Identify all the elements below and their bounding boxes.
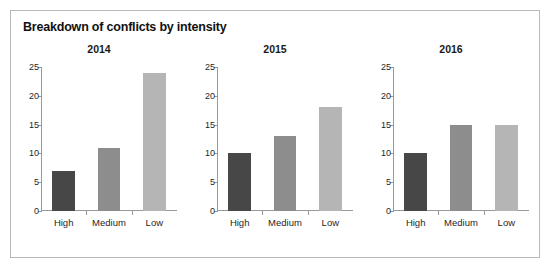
x-axis-labels: HighMediumLow <box>393 217 529 233</box>
x-axis-tick <box>438 211 439 215</box>
y-axis-tick-label: 25 <box>29 62 39 72</box>
bar-high <box>52 171 75 211</box>
bar-low <box>143 73 166 211</box>
x-axis-label-high: High <box>54 217 74 228</box>
bar-medium <box>98 148 121 211</box>
bar-high <box>228 153 251 211</box>
y-axis-tick-label: 0 <box>210 206 215 216</box>
y-axis-tick-label: 10 <box>205 148 215 158</box>
x-axis-label-medium: Medium <box>268 217 302 228</box>
x-axis-tick <box>308 211 309 215</box>
y-axis-tick-label: 0 <box>386 206 391 216</box>
plot-area: 0510152025 <box>217 67 353 211</box>
y-axis-tick-label: 20 <box>381 91 391 101</box>
y-axis-tick-label: 5 <box>386 177 391 187</box>
page-title: Breakdown of conflicts by intensity <box>23 20 226 34</box>
bar-medium <box>450 125 473 211</box>
y-axis-tick-label: 5 <box>210 177 215 187</box>
y-axis-tick-label: 15 <box>205 120 215 130</box>
y-axis-tick-label: 20 <box>205 91 215 101</box>
y-axis-tick-label: 20 <box>29 91 39 101</box>
y-axis-tick-label: 25 <box>205 62 215 72</box>
chart-panel-2014: 20140510152025HighMediumLow <box>11 41 187 256</box>
y-axis-tick-label: 0 <box>34 206 39 216</box>
bar-low <box>319 107 342 211</box>
x-axis-label-high: High <box>406 217 426 228</box>
y-axis-tick-label: 25 <box>381 62 391 72</box>
x-axis-tick <box>132 211 133 215</box>
panel-group: 20140510152025HighMediumLow2015051015202… <box>11 41 539 256</box>
panel-title: 2015 <box>187 43 363 55</box>
y-axis-tick-label: 5 <box>34 177 39 187</box>
x-axis-label-medium: Medium <box>444 217 478 228</box>
x-axis-label-low: Low <box>146 217 163 228</box>
x-axis-label-high: High <box>230 217 250 228</box>
y-axis-tick-label: 10 <box>381 148 391 158</box>
bar-low <box>495 125 518 211</box>
plot-area: 0510152025 <box>41 67 177 211</box>
chart-panel-2015: 20150510152025HighMediumLow <box>187 41 363 256</box>
bar-high <box>404 153 427 211</box>
x-axis-labels: HighMediumLow <box>41 217 177 233</box>
y-axis-tick-label: 15 <box>29 120 39 130</box>
y-axis-tick-label: 15 <box>381 120 391 130</box>
x-axis-label-low: Low <box>322 217 339 228</box>
bar-medium <box>274 136 297 211</box>
x-axis-tick <box>484 211 485 215</box>
x-axis-label-low: Low <box>498 217 515 228</box>
chart-figure: Breakdown of conflicts by intensity 2014… <box>10 10 540 258</box>
bar-series <box>217 67 353 211</box>
x-axis-labels: HighMediumLow <box>217 217 353 233</box>
bar-series <box>41 67 177 211</box>
y-axis-tick-label: 10 <box>29 148 39 158</box>
chart-panel-2016: 20160510152025HighMediumLow <box>363 41 539 256</box>
x-axis-tick <box>262 211 263 215</box>
panel-title: 2016 <box>363 43 539 55</box>
x-axis-label-medium: Medium <box>92 217 126 228</box>
plot-area: 0510152025 <box>393 67 529 211</box>
x-axis-tick <box>86 211 87 215</box>
bar-series <box>393 67 529 211</box>
panel-title: 2014 <box>11 43 187 55</box>
